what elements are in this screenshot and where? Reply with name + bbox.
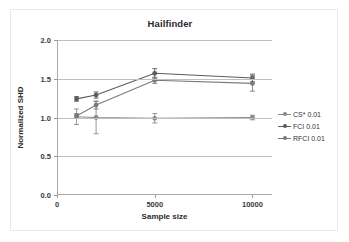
legend-marker-icon (278, 135, 291, 142)
chart-legend: CS* 0.01FCI 0.01RFCI 0.01 (278, 108, 344, 144)
y-tick-label: 0.5 (41, 152, 51, 161)
y-tick-label: 1.0 (41, 113, 51, 122)
chart-figure: Hailfinder Normalized SHD 0.00.51.01.52.… (0, 0, 349, 242)
gridline (57, 79, 272, 80)
series-line (77, 73, 253, 99)
x-tick-label: 5000 (146, 200, 163, 209)
gridline (57, 118, 272, 119)
gridline (57, 40, 272, 41)
data-series (74, 76, 255, 119)
legend-item-label: RFCI 0.01 (293, 135, 325, 142)
data-point-marker (74, 97, 79, 102)
legend-marker-icon (278, 123, 291, 130)
x-axis-title: Sample size (57, 212, 272, 221)
series-line (77, 80, 253, 116)
legend-marker-icon (278, 111, 291, 118)
x-tick-label: 10000 (242, 200, 263, 209)
y-axis-title-label: Normalized SHD (16, 86, 25, 148)
plot-area: 0.00.51.01.52.0 0500010000 (57, 40, 272, 195)
y-axis-title: Normalized SHD (14, 40, 26, 195)
legend-item[interactable]: RFCI 0.01 (278, 132, 344, 144)
data-point-marker (152, 71, 157, 76)
x-axis-line (57, 194, 272, 195)
legend-item-label: CS* 0.01 (293, 111, 321, 118)
y-axis-line (57, 40, 58, 195)
x-tick-mark (252, 195, 253, 198)
y-tick-label: 0.0 (41, 191, 51, 200)
data-point-marker (250, 81, 255, 86)
data-point-marker (94, 93, 99, 98)
x-tick-mark (155, 195, 156, 198)
y-tick-label: 1.5 (41, 74, 51, 83)
data-series (74, 69, 255, 102)
gridline (57, 156, 272, 157)
legend-item[interactable]: CS* 0.01 (278, 108, 344, 120)
legend-item[interactable]: FCI 0.01 (278, 120, 344, 132)
y-tick-label: 2.0 (41, 36, 51, 45)
legend-item-label: FCI 0.01 (293, 123, 320, 130)
x-tick-label: 0 (55, 200, 59, 209)
chart-title: Hailfinder (60, 18, 280, 29)
x-tick-mark (57, 195, 58, 198)
data-point-marker (94, 103, 99, 108)
